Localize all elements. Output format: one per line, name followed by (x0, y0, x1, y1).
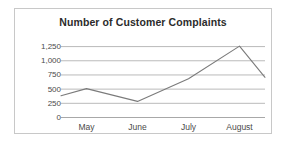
x-axis-tick-label: August (226, 122, 252, 132)
chart-container: Number of Customer Complaints 0250500750… (14, 8, 272, 134)
x-axis-tick-label: July (181, 122, 196, 132)
x-axis-tick-label: June (128, 122, 146, 132)
plot-area: 02505007501,0001,250 MayJuneJulyAugust (15, 9, 271, 133)
x-axis-tick-label: May (78, 122, 94, 132)
x-axis-tick-labels: MayJuneJulyAugust (15, 9, 271, 133)
